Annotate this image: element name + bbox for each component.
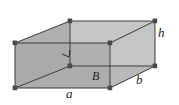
vertex-back-bottom-right (153, 64, 158, 69)
vertex-back-bottom-left (68, 64, 73, 69)
label-h: h (158, 26, 165, 39)
prism-figure: h b B a (0, 0, 179, 105)
vertex-front-bottom-left (13, 86, 18, 91)
vertex-back-top-left (68, 19, 73, 24)
label-b: b (136, 73, 143, 86)
vertex-front-top-right (108, 41, 113, 46)
label-a: a (66, 87, 73, 100)
vertex-front-top-left (13, 41, 18, 46)
vertex-back-top-right (153, 19, 158, 24)
label-B: B (92, 70, 99, 82)
prism-drawing (0, 0, 179, 105)
vertex-front-bottom-right (108, 86, 113, 91)
